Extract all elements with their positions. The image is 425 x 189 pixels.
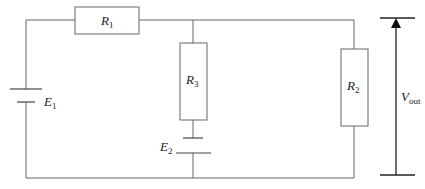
battery-e1-label: E1 bbox=[43, 94, 56, 111]
battery-e2: E2 bbox=[159, 138, 211, 156]
vout-indicator: Vout bbox=[380, 18, 421, 175]
battery-e2-label: E2 bbox=[159, 139, 172, 156]
resistor-r1: R1 bbox=[75, 7, 139, 34]
resistor-r2: R2 bbox=[341, 49, 368, 126]
battery-e1: E1 bbox=[10, 89, 56, 111]
circuit-diagram: R1 R3 R2 E1 E2 Vout bbox=[0, 0, 425, 189]
vout-label: Vout bbox=[401, 89, 421, 106]
vout-arrow-head-icon bbox=[391, 18, 401, 28]
resistor-r3: R3 bbox=[180, 43, 207, 120]
